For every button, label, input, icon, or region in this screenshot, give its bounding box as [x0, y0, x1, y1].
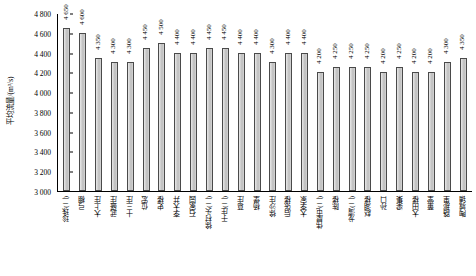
- bar-slot: 4 450: [217, 14, 233, 191]
- y-axis-title-text: 平均流量/(m³/s): [4, 76, 15, 124]
- bar-value-label: 4 300: [123, 54, 130, 70]
- bar-slot: 4 200: [408, 14, 424, 191]
- bar-value-text: 4 450: [221, 24, 228, 40]
- x-axis-tick-label: 徐沙庄: [269, 196, 276, 217]
- x-axis-label-slot: 赵湖楼: [360, 194, 376, 274]
- x-axis-label-slot: 徐沙庄: [265, 194, 281, 274]
- y-axis-tick-label: 3 000: [34, 188, 51, 197]
- bar-slot: 4 400: [170, 14, 186, 191]
- bar-value-text: 4 300: [110, 39, 117, 55]
- bar[interactable]: 4 400: [254, 53, 261, 191]
- bar[interactable]: 4 650: [63, 28, 70, 191]
- bar[interactable]: 4 250: [396, 67, 403, 191]
- bar[interactable]: 4 450: [143, 48, 150, 191]
- bar[interactable]: 4 400: [301, 53, 308, 191]
- bar-value-text: 4 200: [380, 48, 387, 64]
- x-axis-tick-label: 李大井: [174, 196, 181, 217]
- bar-value-text: 4 400: [174, 29, 181, 45]
- bar-value-text: 4 200: [411, 48, 418, 64]
- bar-value-text: 4 400: [237, 29, 244, 45]
- x-axis-tick-label: 弓棚: [78, 196, 85, 210]
- bar-slot: 4 300: [122, 14, 138, 191]
- bar[interactable]: 4 400: [238, 53, 245, 191]
- bar[interactable]: 4 350: [460, 58, 467, 192]
- bar-slot: 4 650: [59, 14, 75, 191]
- x-axis-tick-label: 武盛庄: [110, 196, 117, 217]
- bar-value-label: 4 300: [266, 54, 273, 70]
- bar[interactable]: 4 400: [285, 53, 292, 191]
- bar[interactable]: 4 450: [222, 48, 229, 191]
- x-axis-tick-label: 十三庄: [126, 196, 133, 217]
- bar[interactable]: 4 600: [79, 33, 86, 191]
- y-axis-title: 平均流量/(m³/s): [2, 0, 16, 200]
- x-axis-label-slot: 史楼: [153, 194, 169, 274]
- bar-slot: 4 400: [186, 14, 202, 191]
- bar-value-label: 4 250: [345, 59, 352, 75]
- bar-value-label: 4 300: [440, 54, 447, 70]
- bar[interactable]: 4 450: [206, 48, 213, 191]
- x-axis-tick-labels: 珍珠(二)弓棚大上庄武盛庄十三庄位宏史楼李大井石家园徐村头(二)于庄(二)葛庄杨…: [57, 194, 472, 274]
- bar-value-text: 4 250: [364, 44, 371, 60]
- x-axis-label-slot: 杨堡: [249, 194, 265, 274]
- x-axis-tick-label: 赵湖楼: [364, 196, 371, 217]
- x-axis-tick-label: 董堂: [428, 196, 435, 210]
- bar[interactable]: 4 300: [269, 62, 276, 191]
- bar[interactable]: 4 400: [174, 53, 181, 191]
- bar-slot: 4 500: [154, 14, 170, 191]
- bar[interactable]: 4 300: [111, 62, 118, 191]
- y-axis-tick-label: 3 400: [34, 148, 51, 157]
- x-axis-label-slot: 龙湾(二): [344, 194, 360, 274]
- bar-slot: 4 400: [281, 14, 297, 191]
- x-axis-label-slot: 大李家: [296, 194, 312, 274]
- bar-value-text: 4 400: [301, 29, 308, 45]
- bar[interactable]: 4 250: [349, 67, 356, 191]
- x-axis-label-slot: 于庄(二): [217, 194, 233, 274]
- bar-value-text: 4 200: [316, 48, 323, 64]
- bar[interactable]: 4 300: [444, 62, 451, 191]
- bar-slot: 4 400: [249, 14, 265, 191]
- bar-value-label: 4 350: [456, 49, 463, 65]
- bar[interactable]: 4 200: [412, 72, 419, 191]
- bar-slot: 4 250: [392, 14, 408, 191]
- bar-value-text: 4 400: [285, 29, 292, 45]
- bar[interactable]: 4 500: [158, 43, 165, 191]
- bar-slot: 4 300: [439, 14, 455, 191]
- bar[interactable]: 4 350: [95, 58, 102, 192]
- x-axis-tick-label: 龙湾(二): [348, 196, 355, 222]
- bar[interactable]: 4 200: [317, 72, 324, 191]
- bar[interactable]: 4 250: [364, 67, 371, 191]
- bar[interactable]: 4 250: [333, 67, 340, 191]
- x-axis-tick-label: 徐村头(二): [205, 196, 212, 229]
- x-axis-label-slot: 葛庄: [233, 194, 249, 274]
- bar-value-label: 4 250: [393, 59, 400, 75]
- x-axis-label-slot: 梁集: [392, 194, 408, 274]
- bar-value-label: 4 400: [234, 44, 241, 60]
- x-axis-label-slot: 石家园: [185, 194, 201, 274]
- bar[interactable]: 4 300: [127, 62, 134, 191]
- x-axis-label-slot: 后张楼: [280, 194, 296, 274]
- bar[interactable]: 4 200: [428, 72, 435, 191]
- bar-slot: 4 250: [360, 14, 376, 191]
- x-axis-label-slot: 伟屋屯(二): [312, 194, 328, 274]
- bars-layer: 4 6504 6004 3504 3004 3004 4504 5004 400…: [58, 14, 472, 191]
- bar-value-label: 4 400: [187, 44, 194, 60]
- bar-value-text: 4 450: [206, 24, 213, 40]
- x-axis-label-slot: 弓棚: [74, 194, 90, 274]
- bar-value-text: 4 250: [348, 44, 355, 60]
- bar-value-label: 4 300: [107, 54, 114, 70]
- bar[interactable]: 4 200: [380, 72, 387, 191]
- bar-value-label: 4 200: [424, 63, 431, 79]
- y-axis-tick-label: 3 200: [34, 168, 51, 177]
- bar-value-label: 4 200: [313, 63, 320, 79]
- x-axis-tick-label: 孙口: [380, 196, 387, 210]
- bar[interactable]: 4 400: [190, 53, 197, 191]
- bar-value-text: 4 300: [269, 39, 276, 55]
- bar-slot: 4 600: [75, 14, 91, 191]
- x-axis-tick-label: 大李家: [301, 196, 308, 217]
- x-axis-tick-label: 伟屋屯(二): [317, 196, 324, 229]
- x-axis-tick-label: 陈楼: [333, 196, 340, 210]
- bar-value-label: 4 400: [171, 44, 178, 60]
- bar-value-label: 4 250: [329, 59, 336, 75]
- x-axis-label-slot: 李大井: [169, 194, 185, 274]
- bar-value-label: 4 350: [92, 49, 99, 65]
